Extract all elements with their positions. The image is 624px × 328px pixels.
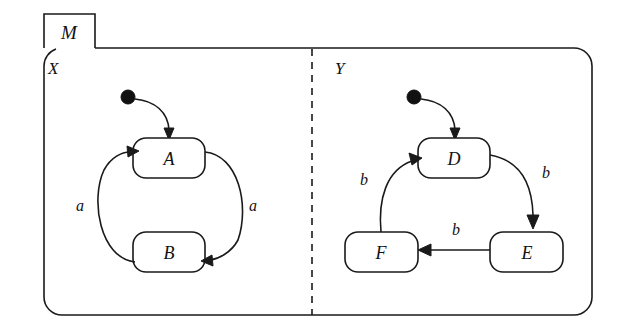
arrowhead-e-to-f	[418, 244, 431, 256]
state-machine-diagram: M X A B a a Y D E	[0, 0, 624, 328]
transition-f-to-d	[380, 161, 412, 232]
transition-b-to-a	[98, 152, 135, 262]
state-d-label: D	[447, 149, 461, 169]
initial-pseudostate-y	[407, 90, 421, 104]
transition-label-y-bottom: b	[452, 221, 460, 238]
composite-state-frame	[44, 48, 592, 315]
state-b-label: B	[164, 243, 175, 263]
state-e-label: E	[521, 243, 533, 263]
region-label-y: Y	[335, 59, 346, 78]
transition-d-to-e	[490, 155, 533, 215]
transition-a-to-b	[205, 152, 243, 260]
transition-label-x-right: a	[249, 197, 257, 214]
transition-init-to-d	[421, 99, 455, 130]
arrowhead-d-to-e	[527, 215, 539, 229]
region-label-x: X	[47, 59, 59, 78]
transition-label-y-left: b	[360, 171, 368, 188]
state-f-label: F	[375, 243, 388, 263]
state-a-label: A	[163, 149, 176, 169]
state-name-label: M	[60, 22, 78, 43]
initial-pseudostate-x	[121, 90, 135, 104]
diagram-canvas: M X A B a a Y D E	[0, 0, 624, 328]
transition-init-to-a	[135, 99, 169, 130]
transition-label-y-right: b	[542, 164, 550, 181]
transition-label-x-left: a	[76, 197, 84, 214]
